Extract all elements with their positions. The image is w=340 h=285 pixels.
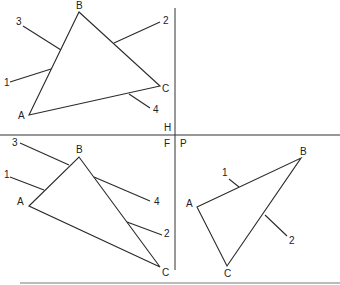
line-label-3: 3 [16, 16, 22, 27]
fold-label-f: F [164, 138, 170, 149]
front-view: ABC1234 [4, 137, 170, 278]
line-label-2: 2 [164, 228, 170, 239]
top-view: ABC1234 [4, 0, 169, 121]
line-label-2: 2 [163, 15, 169, 26]
vertex-label-a: A [17, 196, 24, 207]
line-1 [229, 179, 239, 187]
triangle-abc [197, 158, 301, 266]
line-label-4: 4 [153, 104, 159, 115]
triangle-abc [29, 157, 160, 267]
line-2 [114, 22, 160, 43]
descriptive-geometry-diagram: H F P ABC1234ABC1234ABC12 [0, 0, 340, 285]
vertex-label-a: A [18, 110, 25, 121]
vertex-label-b: B [300, 146, 307, 157]
vertex-label-c: C [224, 268, 231, 279]
fold-label-h: H [164, 122, 171, 133]
line-label-2: 2 [289, 235, 295, 246]
line-3 [23, 26, 61, 50]
vertex-label-b: B [76, 0, 83, 11]
vertex-label-a: A [186, 198, 193, 209]
line-label-4: 4 [154, 196, 160, 207]
vertex-label-c: C [162, 267, 169, 278]
triangle-abc [29, 12, 160, 115]
fold-label-p: P [180, 138, 187, 149]
line-label-3: 3 [12, 137, 18, 148]
vertex-label-c: C [162, 83, 169, 94]
line-2 [265, 215, 287, 236]
vertex-label-b: B [76, 144, 83, 155]
line-label-1: 1 [4, 169, 10, 180]
line-1 [10, 69, 51, 82]
auxiliary-view: ABC12 [186, 146, 307, 279]
line-3 [20, 143, 69, 165]
line-label-1: 1 [222, 167, 228, 178]
line-4 [129, 94, 150, 108]
line-1 [10, 177, 44, 190]
line-label-1: 1 [4, 77, 10, 88]
